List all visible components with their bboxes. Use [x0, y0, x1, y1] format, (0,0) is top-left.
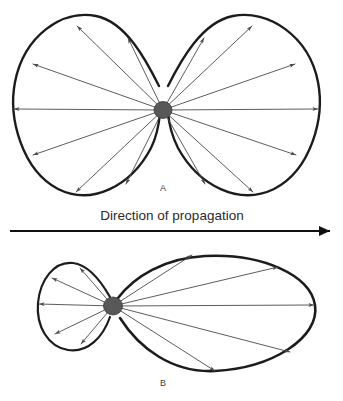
- ray-a-right-down-mid: [163, 110, 296, 155]
- lobe-outline-b-back: [38, 263, 110, 351]
- panel-b: B: [38, 255, 316, 388]
- panel-a: A: [13, 15, 319, 195]
- panel-label-a: A: [160, 183, 166, 193]
- ray-a-right-down-steep: [163, 110, 253, 192]
- panel-b-rays: [39, 255, 314, 371]
- propagation-caption: Direction of propagation: [100, 208, 243, 223]
- source-point-b: [104, 297, 123, 315]
- figure-canvas: A Direction of propagation: [0, 0, 343, 401]
- ray-b-forward-down-steep: [113, 306, 215, 371]
- ray-a-right-horizontal: [163, 109, 318, 110]
- ray-b-forward-up-mid: [113, 267, 278, 306]
- source-point-a: [154, 102, 172, 119]
- panel-b-lobes: [38, 256, 316, 371]
- ray-b-forward-down-mid: [113, 306, 290, 352]
- ray-b-back-horizontal: [39, 304, 113, 306]
- ray-b-forward-horizontal: [113, 305, 314, 306]
- radiation-pattern-figure: A Direction of propagation: [0, 0, 343, 401]
- propagation-axis: Direction of propagation: [10, 208, 330, 231]
- ray-a-right-inner-up: [163, 38, 204, 110]
- lobe-outline-b-forward: [118, 256, 315, 371]
- panel-label-b: B: [160, 378, 166, 388]
- ray-b-forward-up-steep: [113, 255, 192, 306]
- ray-a-right-inner-down: [163, 110, 205, 184]
- ray-b-back-up-mid: [52, 278, 113, 306]
- lobe-outline-a-left: [13, 15, 160, 195]
- ray-a-left-horizontal: [14, 109, 163, 110]
- lobe-outline-a-right: [168, 15, 320, 195]
- ray-a-right-up-mid: [163, 64, 295, 110]
